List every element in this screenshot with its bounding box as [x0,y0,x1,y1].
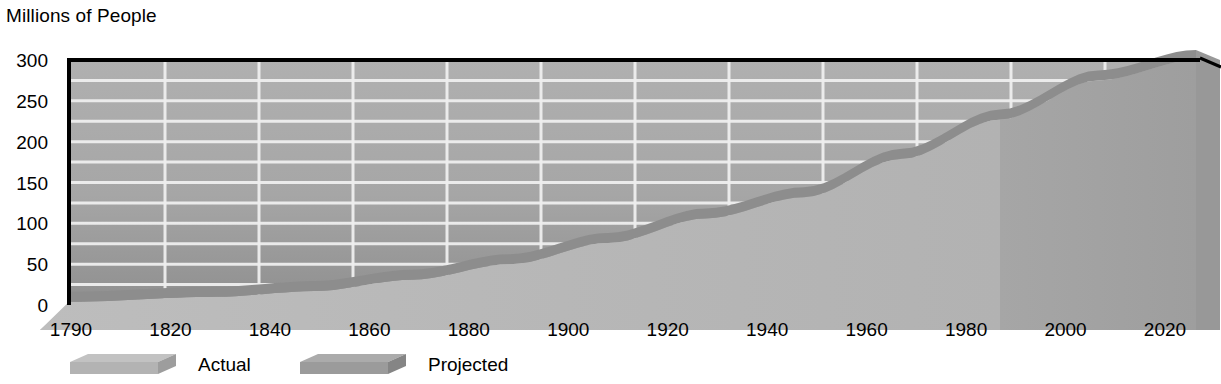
x-tick-label: 1980 [945,320,987,339]
population-area-chart: Millions of People 050100150200250300 [0,0,1221,384]
legend-swatch-projected-icon [300,352,408,378]
x-tick-label: 1790 [50,320,92,339]
x-tick-label: 1840 [249,320,291,339]
x-tick-label: 1900 [547,320,589,339]
x-tick-label: 1940 [746,320,788,339]
x-tick-label: 1920 [647,320,689,339]
x-tick-label: 1960 [845,320,887,339]
x-tick-label: 1860 [348,320,390,339]
right-endcap-face [1196,50,1220,330]
chart-legend: Actual Projected [0,352,1221,384]
legend-label-projected: Projected [428,354,508,376]
legend-item-actual: Actual [70,352,251,378]
x-axis-tick-labels: 1790182018401860188019001920194019601980… [0,320,1221,346]
legend-label-actual: Actual [198,354,251,376]
x-tick-label: 1820 [149,320,191,339]
x-tick-label: 2020 [1144,320,1186,339]
x-tick-label: 1880 [448,320,490,339]
x-tick-label: 2000 [1044,320,1086,339]
legend-item-projected: Projected [300,352,508,378]
legend-swatch-actual-icon [70,352,178,378]
